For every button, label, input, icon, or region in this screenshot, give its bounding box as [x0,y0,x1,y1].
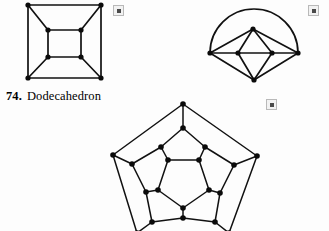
graph-edge [210,53,254,80]
graph-edge [158,160,168,190]
cube-graph-canvas [22,0,108,86]
graph-edge [81,5,101,30]
graph-vertex [295,50,300,55]
graph-vertex [155,187,161,193]
graph-vertex [206,187,212,193]
graph-vertex [217,190,223,196]
marker-top-left-icon [113,5,124,16]
marker-core [117,9,121,13]
octahedron-graph-canvas [203,6,306,88]
graph-vertex [110,152,116,158]
graph-edge [205,147,234,165]
graph-vertex [149,219,155,225]
dodecahedron-graph-figure [104,100,264,231]
graph-vertex [45,27,50,32]
graph-vertex [254,153,260,159]
graph-edge [183,190,209,208]
graph-edge [146,192,152,222]
graph-edge [28,5,48,30]
graph-edge [254,53,298,80]
graph-vertex [25,75,30,80]
graph-vertex [196,157,202,163]
graph-vertex [212,219,218,225]
figure-page: 74.Dodecahedron [0,0,329,231]
marker-middle-icon [266,99,277,110]
graph-edge [183,218,215,222]
graph-vertex [235,50,240,55]
graph-edge [81,57,101,78]
graph-edge [183,128,205,147]
cube-graph-figure [22,0,108,86]
graph-vertex [180,101,186,107]
graph-edge [220,165,234,193]
graph-edge [132,147,161,164]
graph-edge [183,104,257,156]
graph-vertex [78,27,83,32]
marker-core [312,9,316,13]
graph-edge [161,128,183,147]
octahedron-graph-figure [203,6,306,88]
figure-caption: 74.Dodecahedron [6,90,101,103]
graph-vertex [45,54,50,59]
graph-edge [132,164,146,192]
graph-vertex [250,26,255,31]
graph-edge [199,160,209,190]
graph-edge [253,29,298,53]
graph-vertex [78,54,83,59]
graph-vertex [25,2,30,7]
graph-vertex [202,144,208,150]
graph-vertex [129,161,135,167]
graph-edge [158,190,183,208]
graph-edge [215,193,220,222]
graph-edge [253,29,272,53]
marker-top-right-icon [308,5,319,16]
graph-vertex [98,75,103,80]
graph-edge [28,57,48,78]
graph-edge [254,53,272,80]
graph-vertex [180,205,186,211]
graph-vertex [180,125,186,131]
graph-vertex [143,189,149,195]
marker-core [270,103,274,107]
graph-vertex [98,2,103,7]
graph-vertex [269,50,274,55]
graph-vertex [158,144,164,150]
graph-vertex [251,77,256,82]
caption-name: Dodecahedron [27,89,101,103]
graph-vertex [207,50,212,55]
graph-edge [113,104,183,155]
graph-vertex [180,215,186,221]
graph-edge [152,218,183,222]
graph-vertex [165,157,171,163]
caption-number: 74. [6,89,22,103]
graph-vertex [231,162,237,168]
dodecahedron-graph-canvas [104,100,264,231]
graph-edge [210,29,253,53]
